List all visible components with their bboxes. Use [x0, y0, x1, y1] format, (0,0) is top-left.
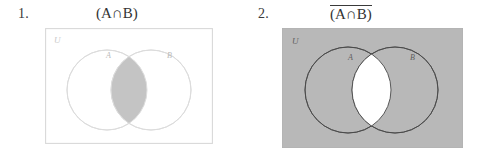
set-b-label-2: B: [410, 54, 415, 62]
complement-overline-2: (A∩B): [330, 5, 372, 23]
diagram-title-2: (A∩B): [330, 5, 372, 23]
diagram-title-1: (A∩B): [96, 5, 138, 22]
venn-graphic-2: [282, 28, 463, 148]
venn-panel-1: 1. (A∩B) U A B: [0, 0, 240, 165]
set-b-label-1: B: [167, 52, 172, 60]
set-a-label-2: A: [348, 54, 353, 62]
venn-graphic-1: [45, 28, 213, 144]
universal-set-label-1: U: [54, 36, 61, 45]
item-number-2: 2.: [258, 6, 269, 22]
universal-set-label-2: U: [292, 37, 299, 46]
venn-panel-2: 2. (A∩B) U A B: [240, 0, 481, 165]
set-a-label-1: A: [106, 52, 111, 60]
venn-diagram-2: U A B: [282, 28, 463, 148]
venn-diagram-1: U A B: [45, 28, 213, 144]
item-number-1: 1.: [18, 6, 29, 22]
